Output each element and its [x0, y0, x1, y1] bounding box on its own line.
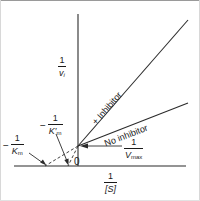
lineweaver-burk-figure: 1 vi 1 [S] 0 1 Vmax − 1 Km − 1 — [0, 0, 200, 201]
vmax-subscript: max — [131, 154, 142, 160]
y-axis-label-numerator: 1 — [58, 56, 66, 65]
arrow-kmprime-shaft — [56, 134, 67, 161]
x-axis-label-numerator: 1 — [104, 172, 117, 181]
km-bar — [11, 144, 24, 145]
y-axis-label-bar — [58, 66, 66, 67]
km-prime-numerator: 1 — [48, 114, 63, 123]
y-axis-label: 1 vi — [58, 56, 66, 80]
km-prime-bar — [48, 124, 63, 125]
vmax-bar — [124, 148, 143, 149]
arrow-km-shaft — [29, 153, 43, 163]
x-axis-label: 1 [S] — [104, 172, 117, 194]
km-annotation: − 1 Km — [3, 134, 24, 158]
x-axis-label-denominator: [S] — [104, 184, 117, 194]
x-axis-label-bar — [104, 182, 117, 183]
arrow-kmprime-head — [64, 159, 68, 166]
arrow-km-head — [40, 160, 46, 166]
km-prime-subscript: m — [57, 130, 62, 136]
km-prime-minus-sign: − — [40, 121, 48, 131]
km-prime-denominator: K′ — [49, 126, 57, 136]
y-axis-label-subscript: i — [64, 72, 65, 78]
km-prime-annotation: − 1 K′m — [40, 114, 63, 138]
vmax-annotation: 1 Vmax — [124, 138, 143, 162]
km-numerator: 1 — [11, 134, 24, 143]
origin-label: 0 — [74, 157, 80, 167]
km-subscript: m — [18, 150, 23, 156]
plot-canvas — [0, 0, 200, 201]
km-minus-sign: − — [3, 141, 11, 151]
